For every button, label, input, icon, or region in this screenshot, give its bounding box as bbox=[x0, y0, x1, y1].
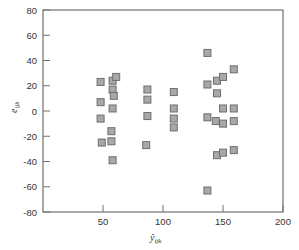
x-tick-label: 50 bbox=[98, 216, 109, 227]
square-marker bbox=[230, 147, 237, 154]
square-marker bbox=[109, 157, 116, 164]
square-marker bbox=[170, 115, 177, 122]
square-marker bbox=[204, 81, 211, 88]
square-marker bbox=[144, 96, 151, 103]
y-tick-label: 0 bbox=[32, 106, 37, 117]
y-tick-label: 40 bbox=[26, 55, 37, 66]
square-marker bbox=[212, 118, 219, 125]
square-marker bbox=[113, 73, 120, 80]
square-marker bbox=[170, 124, 177, 131]
square-marker bbox=[144, 86, 151, 93]
square-marker bbox=[143, 142, 150, 149]
square-marker bbox=[220, 120, 227, 127]
y-axis-label: eijk bbox=[8, 101, 21, 113]
y-tick-label: 20 bbox=[26, 80, 37, 91]
square-marker bbox=[214, 90, 221, 97]
square-marker bbox=[108, 138, 115, 145]
square-marker bbox=[230, 105, 237, 112]
y-tick-label: -60 bbox=[23, 181, 37, 192]
y-tick-label: -40 bbox=[23, 156, 37, 167]
x-tick-label: 150 bbox=[215, 216, 231, 227]
square-marker bbox=[108, 128, 115, 135]
square-marker bbox=[204, 187, 211, 194]
square-marker bbox=[170, 89, 177, 96]
square-marker bbox=[230, 118, 237, 125]
square-marker bbox=[97, 99, 104, 106]
square-marker bbox=[97, 78, 104, 85]
scatter-chart: 806040200-20-40-60-80 50100150200 eijk ŷ… bbox=[0, 0, 299, 250]
square-marker bbox=[170, 105, 177, 112]
square-marker bbox=[109, 105, 116, 112]
square-marker bbox=[97, 115, 104, 122]
x-axis-label: ŷijk bbox=[149, 232, 162, 245]
square-marker bbox=[204, 49, 211, 56]
y-tick-label: 80 bbox=[26, 5, 37, 16]
y-tick-label: 60 bbox=[26, 30, 37, 41]
square-marker bbox=[144, 113, 151, 120]
square-marker bbox=[220, 149, 227, 156]
y-axis: 806040200-20-40-60-80 bbox=[23, 5, 50, 218]
square-marker bbox=[230, 66, 237, 73]
y-tick-label: -20 bbox=[23, 131, 37, 142]
x-axis: 50100150200 bbox=[98, 205, 291, 227]
plot-frame bbox=[43, 10, 283, 212]
y-tick-label: -80 bbox=[23, 207, 37, 218]
square-marker bbox=[110, 92, 117, 99]
square-marker bbox=[204, 114, 211, 121]
square-marker bbox=[220, 73, 227, 80]
square-marker bbox=[98, 139, 105, 146]
data-points bbox=[97, 49, 237, 194]
x-tick-label: 100 bbox=[155, 216, 171, 227]
square-marker bbox=[220, 105, 227, 112]
x-tick-label: 200 bbox=[275, 216, 291, 227]
